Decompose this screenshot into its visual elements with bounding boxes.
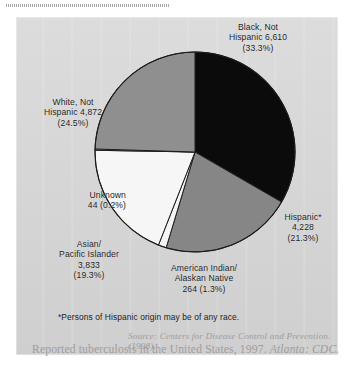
slice-label-black-not-hispanic: Black, Not Hispanic 6,610 (33.3%) xyxy=(194,22,322,53)
source-publisher-italic: Atlanta: CDC. xyxy=(270,343,340,356)
source-title-plain: Reported tuberculosis in the United Stat… xyxy=(32,343,270,356)
footnote-hispanic-origin: *Persons of Hispanic origin may be of an… xyxy=(58,312,239,323)
pie-svg xyxy=(16,17,338,355)
slice-label-unknown: Unknown 44 (0.2%) xyxy=(18,190,126,211)
slice-label-hispanic: Hispanic* 4,228 (21.3%) xyxy=(264,212,342,243)
slice-label-asian-pacific-islander: Asian/ Pacific Islander 3,833 (19.3%) xyxy=(30,239,148,281)
slice-label-american-indian-alaskan-native: American Indian/ Alaskan Native 264 (1.3… xyxy=(134,263,274,294)
figure-panel: Black, Not Hispanic 6,610 (33.3%) White,… xyxy=(16,17,338,355)
source-citation-line-2: Reported tuberculosis in the United Stat… xyxy=(32,343,339,356)
pie-chart: Black, Not Hispanic 6,610 (33.3%) White,… xyxy=(16,17,338,355)
scanner-dotted-rule xyxy=(6,4,169,7)
slice-label-white-not-hispanic: White, Not Hispanic 4,872 (24.5%) xyxy=(14,97,132,128)
